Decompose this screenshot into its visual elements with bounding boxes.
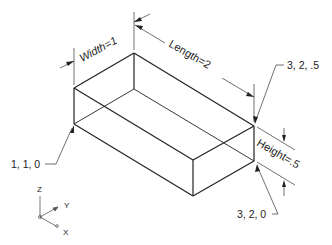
point-label-1-1-0: 1, 1, 0: [11, 158, 40, 170]
point-label-3-2-0: 3, 2, 0: [237, 208, 266, 220]
box-edges: [74, 53, 254, 196]
axis-x-label: X: [63, 228, 69, 237]
axis-triad-icon: [39, 196, 59, 227]
width-label: Width=1: [77, 34, 118, 64]
axis-z-label: Z: [37, 185, 42, 194]
length-label: Length=2: [167, 37, 213, 70]
length-dimension: [135, 25, 254, 122]
isometric-box-diagram: Width=1 Length=2 Height=.5 1, 1, 0 3, 2,…: [0, 0, 332, 245]
point-callouts: [45, 65, 284, 214]
point-label-3-2-05: 3, 2, .5: [287, 59, 319, 71]
axis-y-label: Y: [64, 201, 70, 210]
